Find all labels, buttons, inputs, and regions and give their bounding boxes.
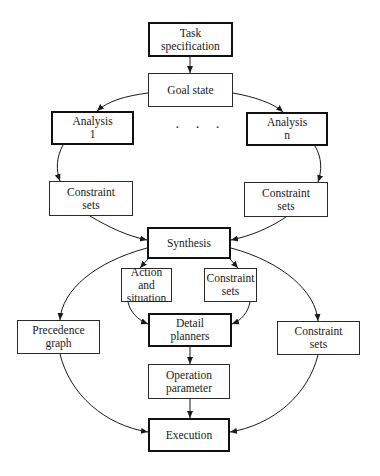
constraint-sets-far-right-node: Constraint sets xyxy=(277,321,360,355)
edge-csr-synthesis xyxy=(231,217,286,240)
precedence-graph-node: Precedence graph xyxy=(17,320,100,354)
constraint-sets-right-node: Constraint sets xyxy=(244,182,328,217)
edge-goal-analysisn xyxy=(233,93,283,112)
edge-csmid-detail xyxy=(232,302,250,324)
synthesis-label: Synthesis xyxy=(167,237,211,250)
action-situation-node: Action and situation xyxy=(121,268,172,302)
edge-goal-analysis1 xyxy=(97,93,148,111)
operation-parameter-label: Operation parameter xyxy=(166,369,212,395)
edge-analysisn-cs xyxy=(315,146,321,182)
edge-synthesis-csmid xyxy=(230,259,238,268)
analysis-n-label: Analysis n xyxy=(267,116,307,142)
goal-state-node: Goal state xyxy=(148,73,233,107)
execution-label: Execution xyxy=(166,429,213,442)
constraint-sets-left-label: Constraint sets xyxy=(67,186,115,212)
flow-diagram: Task specification Goal state Analysis 1… xyxy=(0,0,380,476)
detail-planners-node: Detail planners xyxy=(148,313,232,347)
analysis-1-label: Analysis 1 xyxy=(72,115,112,141)
task-specification-label: Task specification xyxy=(161,27,220,53)
detail-planners-label: Detail planners xyxy=(171,317,210,343)
constraint-sets-far-right-label: Constraint sets xyxy=(295,325,343,351)
constraint-sets-mid-label: Constraint sets xyxy=(207,272,255,298)
edge-csl-synthesis xyxy=(90,216,147,240)
ellipsis: · · · xyxy=(175,120,226,136)
task-specification-node: Task specification xyxy=(148,22,233,57)
constraint-sets-right-label: Constraint sets xyxy=(262,187,310,213)
analysis-1-node: Analysis 1 xyxy=(51,111,134,145)
goal-state-label: Goal state xyxy=(167,84,213,97)
edge-analysis1-cs xyxy=(57,145,63,181)
edge-action-detail xyxy=(128,302,148,324)
synthesis-node: Synthesis xyxy=(147,227,231,259)
edge-precedence-execution xyxy=(60,354,148,432)
precedence-graph-label: Precedence graph xyxy=(32,324,84,350)
constraint-sets-left-node: Constraint sets xyxy=(49,181,133,216)
operation-parameter-node: Operation parameter xyxy=(148,364,230,399)
constraint-sets-mid-node: Constraint sets xyxy=(204,268,257,302)
analysis-n-node: Analysis n xyxy=(246,112,328,146)
action-situation-label: Action and situation xyxy=(122,266,171,305)
execution-node: Execution xyxy=(148,418,230,452)
edge-csfar-execution xyxy=(230,355,318,432)
